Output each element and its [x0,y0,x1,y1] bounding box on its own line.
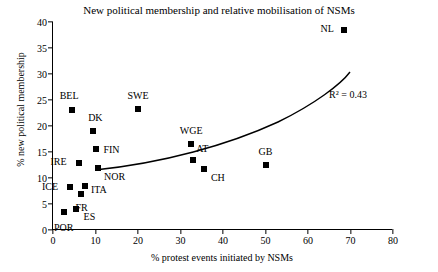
data-point-label: ES [84,211,96,222]
data-point [78,191,84,197]
y-axis-tick-mark [48,73,53,74]
x-axis-tick-mark [307,229,308,234]
data-point [67,184,73,190]
data-point [95,165,101,171]
data-point-label: FR [76,201,88,212]
x-axis-tick-mark [95,229,96,234]
y-axis-tick-mark [48,151,53,152]
x-axis-label: % protest events initiated by NSMs [52,252,392,263]
data-point-label: GB [259,146,273,157]
data-point-label: NL [320,22,333,33]
data-point [61,209,67,215]
data-point-label: BEL [60,90,79,101]
data-point-label: FIN [103,144,119,155]
data-point [190,157,196,163]
y-axis-tick-mark [48,47,53,48]
x-axis-tick-mark [265,229,266,234]
data-point [82,183,88,189]
data-point-label: CH [211,171,225,182]
x-axis-tick-mark [350,229,351,234]
y-axis-label: % new political membership [15,6,26,214]
data-point-label: ITA [91,183,107,194]
data-point-label: SWE [127,89,148,100]
y-axis-tick-mark [48,99,53,100]
data-point [201,166,207,172]
trendline [53,22,393,230]
r-squared-annotation: R² = 0.43 [329,89,367,100]
plot-area: R² = 0.43 051015202530354001020304050607… [52,22,392,230]
data-point-label: DK [88,112,102,123]
data-point [69,107,75,113]
data-point [76,160,82,166]
chart-title: New political membership and relative mo… [0,4,438,16]
x-axis-tick-mark [222,229,223,234]
y-axis-tick-mark [48,177,53,178]
chart-container: New political membership and relative mo… [0,0,438,272]
data-point-label: AT [196,142,208,153]
y-axis-tick-mark [48,125,53,126]
y-axis-tick-mark [48,21,53,22]
x-axis-tick-mark [180,229,181,234]
data-point [263,162,269,168]
x-axis-tick-mark [137,229,138,234]
data-point-label: WGE [180,125,203,136]
data-point [188,141,194,147]
y-axis-tick-mark [48,203,53,204]
x-axis-tick-mark [392,229,393,234]
data-point-label: POR [54,221,73,232]
data-point-label: IRE [50,156,66,167]
data-point-label: NOR [104,170,125,181]
data-point [90,128,96,134]
data-point-label: ICE [42,180,58,191]
data-point [93,146,99,152]
data-point [135,106,141,112]
data-point [341,27,347,33]
